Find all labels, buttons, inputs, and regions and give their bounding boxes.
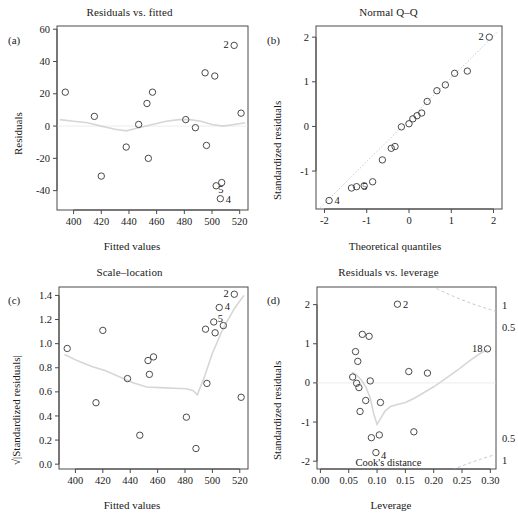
loess-smoother: [60, 120, 245, 131]
data-point: [135, 121, 141, 127]
x-tick-label: 1: [449, 215, 454, 226]
data-point: [193, 445, 199, 451]
point-label: 4: [226, 194, 232, 205]
data-point: [212, 330, 218, 336]
y-tick-label: 0.6: [39, 386, 52, 397]
data-point: [398, 124, 404, 130]
x-tick-label: 0.20: [425, 475, 443, 486]
data-point: [359, 331, 365, 337]
x-tick-label: 0: [406, 215, 411, 226]
x-tick-label: 520: [232, 216, 248, 227]
data-point: [62, 89, 68, 95]
data-point: [183, 414, 189, 420]
y-tick-label: -20: [36, 153, 50, 164]
data-point: [192, 124, 198, 130]
panel-c: Scale–location (c) √|Standardized residu…: [0, 260, 259, 519]
point-label: 2: [479, 31, 484, 42]
cooks-contour-label: 1: [502, 455, 507, 466]
data-point: [349, 374, 355, 380]
panel-a-plot: 400420440460480500520-40-200204060542: [0, 0, 259, 260]
cooks-contour-label: 0.5: [502, 433, 515, 444]
data-point: [377, 399, 383, 405]
point-label: 4: [381, 450, 387, 461]
data-point: [100, 327, 106, 333]
y-tick-label: 1: [304, 76, 309, 87]
y-tick-label: 2: [304, 32, 309, 43]
data-point: [238, 110, 244, 116]
panel-b: Normal Q–Q (b) Standardized residuals Th…: [259, 0, 518, 260]
panel-a: Residuals vs. fitted (a) Residuals Fitte…: [0, 0, 259, 260]
x-tick-label: 0.10: [368, 475, 386, 486]
point-label: 2: [224, 288, 229, 299]
data-point: [146, 371, 152, 377]
data-point: [442, 82, 448, 88]
point-label: 5: [218, 313, 223, 324]
x-tick-label: 2: [491, 215, 496, 226]
cooks-distance-contour: [448, 484, 496, 509]
x-tick-label: 0.30: [481, 475, 499, 486]
data-point: [486, 34, 492, 40]
data-point: [451, 70, 457, 76]
point-label: 5: [362, 181, 367, 192]
data-point: [357, 408, 363, 414]
y-tick-label: 0: [304, 121, 309, 132]
data-point: [388, 145, 394, 151]
data-point: [145, 155, 151, 161]
panel-d: Residuals vs. leverage (d) Standardized …: [259, 260, 518, 519]
x-tick-label: 420: [95, 475, 111, 486]
x-tick-label: 500: [205, 475, 221, 486]
y-tick-label: -40: [36, 185, 50, 196]
x-tick-label: 440: [121, 216, 137, 227]
data-point: [411, 429, 417, 435]
data-point: [352, 348, 358, 354]
data-point: [144, 100, 150, 106]
y-tick-label: 1: [305, 338, 310, 349]
data-point: [91, 113, 97, 119]
panel-c-plot: 4004204404604805005200.00.20.40.60.81.01…: [0, 260, 259, 519]
point-label: 18: [472, 343, 483, 354]
y-tick-label: -1: [301, 417, 310, 428]
y-tick-label: 0.4: [39, 411, 53, 422]
y-tick-label: 60: [40, 24, 51, 35]
data-point: [394, 301, 400, 307]
data-point: [216, 304, 222, 310]
y-tick-label: 0: [45, 121, 50, 132]
data-point: [123, 144, 129, 150]
data-point: [373, 449, 379, 455]
data-point: [231, 291, 237, 297]
point-label: 5: [218, 184, 223, 195]
data-point: [217, 196, 223, 202]
x-tick-label: 460: [150, 475, 166, 486]
cooks-distance-annotation: Cook's distance: [356, 457, 422, 468]
data-point: [211, 319, 217, 325]
panel-b-plot: -2-1012-1012452: [259, 0, 518, 260]
x-tick-label: 520: [232, 475, 248, 486]
plot-frame: [317, 287, 496, 469]
plot-frame: [57, 26, 248, 210]
x-tick-label: 400: [68, 475, 84, 486]
x-tick-label: 0.05: [340, 475, 358, 486]
x-tick-label: 400: [66, 216, 82, 227]
panel-d-plot: 0.000.050.100.150.200.250.30-2-101210.50…: [259, 260, 518, 519]
data-point: [376, 432, 382, 438]
point-label: 2: [403, 299, 408, 310]
data-point: [150, 354, 156, 360]
x-tick-label: 440: [122, 475, 138, 486]
data-point: [64, 345, 70, 351]
data-point: [149, 89, 155, 95]
x-tick-label: 0.25: [453, 475, 471, 486]
data-point: [434, 88, 440, 94]
data-point: [369, 179, 375, 185]
data-point: [363, 397, 369, 403]
y-tick-label: 0.2: [39, 435, 52, 446]
x-tick-label: 0.15: [396, 475, 414, 486]
point-label: 4: [335, 195, 341, 206]
data-point: [93, 400, 99, 406]
point-label: 2: [223, 39, 228, 50]
y-tick-label: -2: [301, 456, 310, 467]
x-tick-label: 0.00: [311, 475, 329, 486]
point-label: 4: [225, 301, 231, 312]
data-point: [392, 143, 398, 149]
data-point: [424, 370, 430, 376]
x-tick-label: 500: [204, 216, 220, 227]
